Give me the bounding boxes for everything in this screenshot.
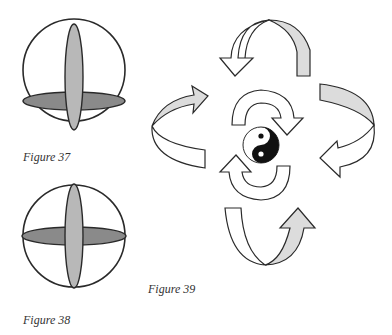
yin-yang-icon <box>243 127 279 163</box>
caption-figure-37: Figure 37 <box>23 150 70 165</box>
top-arrow-shade <box>269 20 310 76</box>
sphere-figure-38 <box>22 184 126 288</box>
bottom-arrow-shade <box>265 208 315 265</box>
top-arrow <box>220 20 269 76</box>
caption-figure-39: Figure 39 <box>148 282 195 297</box>
right-arrow-shade <box>320 84 374 125</box>
left-arrow <box>152 126 205 168</box>
right-arrow <box>320 125 374 177</box>
caption-figure-38: Figure 38 <box>23 313 70 328</box>
left-arrow-shade <box>152 86 208 126</box>
figures-canvas <box>0 0 392 335</box>
sphere-figure-37 <box>23 19 125 130</box>
bottom-arrow <box>225 208 265 265</box>
